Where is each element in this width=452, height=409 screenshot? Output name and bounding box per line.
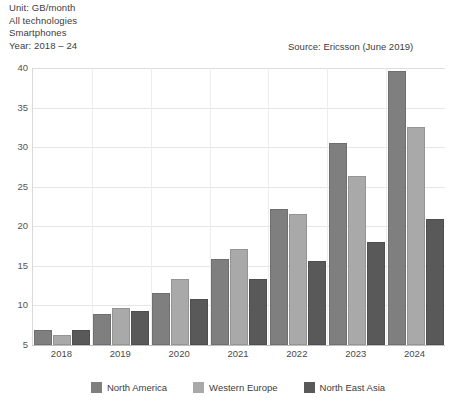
y-axis-label: 30 bbox=[4, 141, 28, 152]
legend-swatch-icon bbox=[304, 382, 315, 393]
bar-group-2020 bbox=[151, 68, 210, 345]
y-axis-label: 25 bbox=[4, 181, 28, 192]
bar[interactable] bbox=[112, 308, 130, 345]
bar[interactable] bbox=[249, 279, 267, 345]
y-axis-label: 20 bbox=[4, 220, 28, 231]
bar[interactable] bbox=[211, 259, 229, 345]
bar-group-2019 bbox=[92, 68, 151, 345]
bar[interactable] bbox=[308, 261, 326, 345]
y-axis-label: 35 bbox=[4, 102, 28, 113]
bar-group-2021 bbox=[210, 68, 269, 345]
note-unit: Unit: GB/month bbox=[9, 2, 77, 15]
source-note: Source: Ericsson (June 2019) bbox=[288, 41, 413, 52]
bar[interactable] bbox=[367, 242, 385, 345]
bar[interactable] bbox=[407, 127, 425, 345]
bar[interactable] bbox=[289, 214, 307, 345]
y-axis-label: 15 bbox=[4, 260, 28, 271]
x-axis-label: 2019 bbox=[91, 348, 150, 364]
plot-area bbox=[32, 68, 445, 346]
legend-label: North East Asia bbox=[320, 382, 385, 393]
x-axis-label: 2022 bbox=[267, 348, 326, 364]
bar-group-2023 bbox=[327, 68, 386, 345]
bar[interactable] bbox=[93, 314, 111, 345]
legend-swatch-icon bbox=[91, 382, 102, 393]
bar[interactable] bbox=[230, 249, 248, 345]
x-axis-label: 2020 bbox=[150, 348, 209, 364]
x-axis-label: 2021 bbox=[209, 348, 268, 364]
y-axis-label: 40 bbox=[4, 62, 28, 73]
bar[interactable] bbox=[171, 279, 189, 345]
bar[interactable] bbox=[72, 330, 90, 345]
x-axis-label: 2023 bbox=[326, 348, 385, 364]
x-axis-label: 2024 bbox=[385, 348, 444, 364]
bar-group-2018 bbox=[33, 68, 92, 345]
x-axis-ticks: 2018201920202021202220232024 bbox=[32, 348, 444, 364]
chart-legend: North AmericaWestern EuropeNorth East As… bbox=[32, 382, 444, 393]
bar[interactable] bbox=[270, 209, 288, 345]
y-axis-label: 10 bbox=[4, 299, 28, 310]
legend-label: North America bbox=[107, 382, 167, 393]
bar[interactable] bbox=[190, 299, 208, 345]
legend-item[interactable]: Western Europe bbox=[193, 382, 277, 393]
x-axis-label: 2018 bbox=[32, 348, 91, 364]
header-notes: Unit: GB/month All technologies Smartpho… bbox=[9, 2, 77, 52]
bar[interactable] bbox=[131, 311, 149, 345]
chart-screenshot: Unit: GB/month All technologies Smartpho… bbox=[0, 0, 452, 409]
legend-item[interactable]: North East Asia bbox=[304, 382, 385, 393]
bar-groups bbox=[33, 68, 445, 345]
bar[interactable] bbox=[426, 219, 444, 345]
bar[interactable] bbox=[348, 176, 366, 345]
y-axis-label: 5 bbox=[4, 339, 28, 350]
legend-swatch-icon bbox=[193, 382, 204, 393]
bar[interactable] bbox=[34, 330, 52, 345]
legend-item[interactable]: North America bbox=[91, 382, 167, 393]
note-year-range: Year: 2018 – 24 bbox=[9, 40, 77, 53]
bar[interactable] bbox=[152, 293, 170, 345]
bar-group-2024 bbox=[386, 68, 445, 345]
bar[interactable] bbox=[329, 143, 347, 345]
note-device: Smartphones bbox=[9, 27, 77, 40]
bar[interactable] bbox=[388, 71, 406, 345]
note-technologies: All technologies bbox=[9, 15, 77, 28]
bar[interactable] bbox=[53, 335, 71, 345]
legend-label: Western Europe bbox=[209, 382, 277, 393]
bar-group-2022 bbox=[268, 68, 327, 345]
